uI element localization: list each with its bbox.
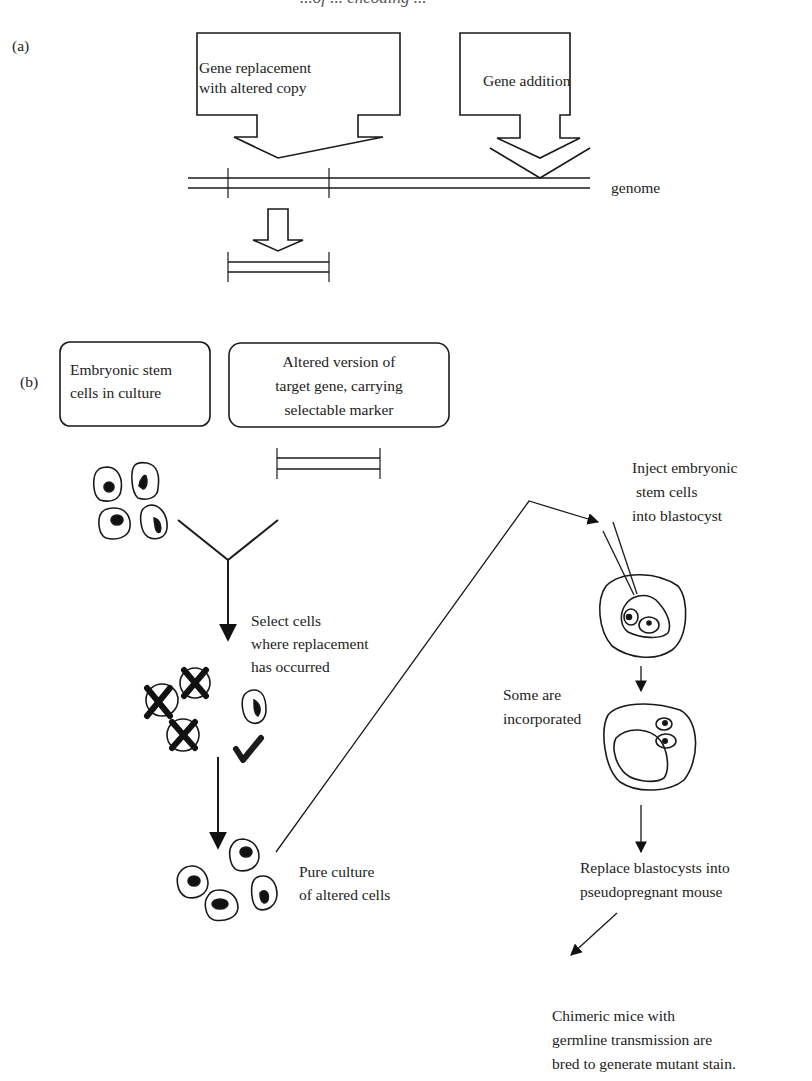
replace-step-1: Replace blastocysts into [580,858,730,877]
check-mark [236,738,261,760]
outcome-2: germline transmission are [552,1030,712,1049]
inject-step-1: Inject embryonic [632,458,737,477]
select-step-3: has occurred [251,657,330,676]
pure-culture-cells [177,839,277,921]
select-step-2: where replacement [251,634,368,653]
blastocyst-injected [600,575,686,658]
pure-culture-1: Pure culture [299,862,374,881]
pure-culture-2: of altered cells [299,885,390,904]
incorporated-2: incorporated [503,709,581,728]
outcome-3: bred to generate mutant stain. [552,1054,736,1073]
cross-marks [147,670,206,748]
transfer-arrow [276,501,598,852]
gene-replacement-label-1: Gene replacement [199,58,311,77]
excise-arrow [253,209,303,251]
altered-gene-label-2: target gene, carrying [229,376,449,395]
panel-a-label: (a) [12,36,29,55]
altered-gene-label-1: Altered version of [229,352,449,371]
panel-b-label: (b) [20,372,38,391]
selected-cell [242,690,266,723]
inject-step-2: stem cells [632,482,697,501]
figure-drawing [0,0,812,1081]
replace-step-2: pseudopregnant mouse [580,882,722,901]
gene-addition-callout [460,33,580,158]
outcome-1: Chimeric mice with [552,1006,675,1025]
es-cells-cluster [94,463,167,539]
incorporated-1: Some are [503,685,561,704]
gene-addition-label: Gene addition [483,71,570,90]
gene-replacement-label-2: with altered copy [199,78,307,97]
altered-gene-label-3: selectable marker [229,400,449,419]
blastocyst-chimeric [604,704,696,790]
es-cells-label-1: Embryonic stem [70,360,172,379]
select-step-1: Select cells [251,611,321,630]
inject-step-3: into blastocyst [632,506,722,525]
genome-label: genome [611,178,660,197]
es-cells-label-2: cells in culture [70,383,161,402]
running-header: ...of ... encoding ... [300,0,427,8]
